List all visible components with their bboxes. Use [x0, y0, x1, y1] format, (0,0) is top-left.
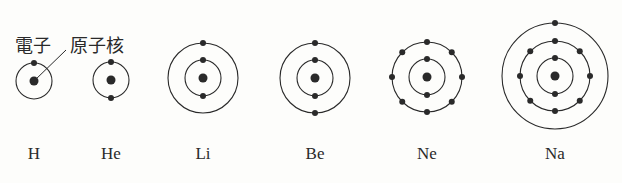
electron-dot — [200, 57, 206, 63]
electron-dot — [552, 20, 558, 26]
atom-li — [168, 40, 238, 113]
electron-dot — [108, 59, 114, 65]
electron-dot — [389, 74, 395, 80]
electron-label: 電子 — [15, 31, 51, 57]
symbol-h: H — [28, 144, 40, 164]
electron-dot — [527, 98, 533, 104]
electron-dot — [587, 73, 593, 79]
electron-dot — [312, 93, 318, 99]
electron-dot — [312, 40, 318, 46]
electron-dot — [552, 55, 558, 61]
electron-dot — [552, 91, 558, 97]
electron-dot — [424, 92, 430, 98]
electron-dot — [312, 57, 318, 63]
electron-dot — [577, 48, 583, 54]
atom-ne — [389, 39, 465, 115]
atom-he — [93, 59, 129, 101]
nucleus-dot — [107, 76, 116, 85]
symbol-be: Be — [306, 144, 325, 164]
electron-dot — [527, 48, 533, 54]
atom-be — [280, 40, 350, 116]
electron-dot — [449, 99, 455, 105]
electron-dot — [108, 95, 114, 101]
electron-dot — [577, 98, 583, 104]
electron-dot — [399, 49, 405, 55]
symbol-he: He — [101, 144, 121, 164]
atom-na — [502, 20, 608, 129]
nucleus-label: 原子核 — [70, 31, 124, 57]
electron-dot — [424, 39, 430, 45]
atom-h — [16, 60, 52, 99]
nucleus-dot — [311, 74, 320, 83]
electron-dot — [424, 109, 430, 115]
symbol-ne: Ne — [417, 144, 437, 164]
electron-dot — [517, 73, 523, 79]
electron-dot — [449, 49, 455, 55]
electron-dot — [424, 56, 430, 62]
electron-dot — [399, 99, 405, 105]
electron-dot — [200, 93, 206, 99]
symbol-na: Na — [545, 144, 565, 164]
nucleus-dot — [30, 77, 39, 86]
electron-dot — [552, 38, 558, 44]
electron-dot — [459, 74, 465, 80]
electron-dot — [31, 60, 37, 66]
nucleus-dot — [199, 74, 208, 83]
nucleus-dot — [551, 72, 560, 81]
electron-dot — [552, 108, 558, 114]
nucleus-dot — [423, 73, 432, 82]
symbol-li: Li — [195, 144, 210, 164]
electron-dot — [200, 40, 206, 46]
electron-dot — [312, 110, 318, 116]
